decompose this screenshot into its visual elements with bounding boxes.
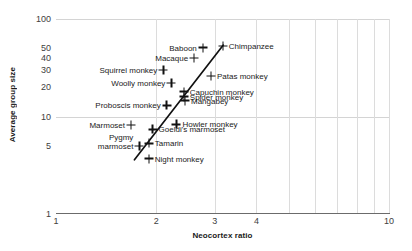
gridline-vertical bbox=[156, 19, 157, 214]
plot-area: PygmymarmosetMarmosetGoeldi's marmosetTa… bbox=[56, 19, 389, 214]
data-point-marker bbox=[144, 154, 153, 163]
data-point-marker bbox=[218, 41, 227, 50]
data-point-label: Squirrel monkey bbox=[99, 65, 157, 74]
gridline-vertical bbox=[289, 19, 290, 214]
data-point-marker bbox=[198, 43, 207, 52]
data-point-marker bbox=[181, 96, 190, 105]
data-point-marker bbox=[206, 72, 215, 81]
y-axis-tick-label: 5 bbox=[6, 141, 56, 151]
data-point-marker bbox=[162, 101, 171, 110]
data-point-marker bbox=[144, 139, 153, 148]
y-axis-tick-label: 100 bbox=[6, 14, 56, 24]
data-point-label: Woolly monkey bbox=[111, 79, 165, 88]
x-axis-tick-label: 4 bbox=[254, 216, 259, 226]
data-point-label: Chimpanzee bbox=[229, 41, 274, 50]
gridline-horizontal bbox=[56, 19, 389, 20]
data-point-marker bbox=[190, 53, 199, 62]
x-axis-line bbox=[56, 213, 390, 214]
data-point-label: Marmoset bbox=[89, 120, 125, 129]
data-point-label: Tamarin bbox=[155, 139, 183, 148]
gridline-horizontal bbox=[56, 117, 389, 118]
data-point-marker bbox=[135, 141, 144, 150]
data-point-label: Night monkey bbox=[155, 154, 204, 163]
x-axis-tick-label: 2 bbox=[154, 216, 159, 226]
scatter-chart: Average group size 151020304050100 Pygmy… bbox=[0, 0, 412, 251]
gridline-vertical bbox=[357, 19, 358, 214]
y-axis-tick-labels: 151020304050100 bbox=[0, 0, 56, 251]
data-point-label: Proboscis monkey bbox=[95, 101, 160, 110]
y-axis-tick-label: 40 bbox=[6, 53, 56, 63]
y-axis-tick-label: 30 bbox=[6, 65, 56, 75]
data-point-label: Howler monkey bbox=[182, 120, 237, 129]
x-axis-title-text: Neocortex ratio bbox=[192, 231, 252, 240]
data-point-label: Patas monkey bbox=[217, 72, 268, 81]
data-point-label: Mangabey bbox=[191, 96, 228, 105]
data-point-marker bbox=[127, 120, 136, 129]
data-point-marker bbox=[172, 120, 181, 129]
data-point-label: Pygmymarmoset bbox=[98, 133, 134, 151]
x-axis-title: Neocortex ratio bbox=[56, 231, 389, 240]
data-point-marker bbox=[159, 65, 168, 74]
x-axis-tick-label: 1 bbox=[53, 216, 58, 226]
gridline-vertical bbox=[315, 19, 316, 214]
gridline-vertical bbox=[337, 19, 338, 214]
y-axis-tick-label: 10 bbox=[6, 112, 56, 122]
gridline-vertical bbox=[389, 19, 390, 214]
data-point-marker bbox=[148, 125, 157, 134]
gridline-vertical bbox=[215, 19, 216, 214]
data-point-label: Macaque bbox=[155, 53, 188, 62]
y-axis-tick-label: 1 bbox=[6, 209, 56, 219]
x-axis-tick-label: 10 bbox=[384, 216, 394, 226]
data-point-label: Baboon bbox=[169, 43, 197, 52]
y-axis-tick-label: 20 bbox=[6, 82, 56, 92]
gridline-vertical bbox=[374, 19, 375, 214]
x-axis-tick-label: 3 bbox=[212, 216, 217, 226]
y-axis-tick-label: 50 bbox=[6, 43, 56, 53]
data-point-marker bbox=[167, 79, 176, 88]
